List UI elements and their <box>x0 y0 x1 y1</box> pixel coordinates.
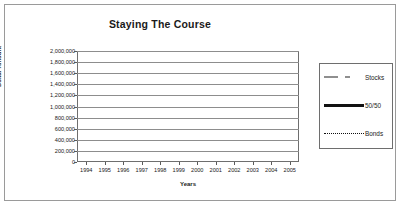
x-tick-mark <box>142 162 143 165</box>
x-tick-label: 1998 <box>154 167 166 173</box>
gridline <box>77 118 299 119</box>
gridline <box>77 151 299 152</box>
x-tick-label: 2003 <box>247 167 259 173</box>
gridline <box>77 129 299 130</box>
y-tick-label: 200,000 <box>13 148 75 154</box>
y-tick-label: 2,000,000 <box>13 48 75 54</box>
y-tick-label: 600,000 <box>13 126 75 132</box>
gridline <box>77 62 299 63</box>
y-tick-label: 1,200,000 <box>13 92 75 98</box>
x-tick-mark <box>160 162 161 165</box>
y-tick-mark <box>74 73 77 74</box>
y-tick-label: 400,000 <box>13 137 75 143</box>
y-axis-labels: Dollar Amount 0200,000400,000600,000800,… <box>5 5 75 207</box>
plot-area-wrapper <box>77 51 299 162</box>
y-tick-label: 1,800,000 <box>13 59 75 65</box>
legend-label-stocks: Stocks <box>365 74 384 81</box>
x-tick-label: 2000 <box>191 167 203 173</box>
gridline <box>77 140 299 141</box>
legend-swatch-bonds-icon <box>324 128 364 138</box>
x-tick-label: 1995 <box>99 167 111 173</box>
legend-label-bonds: Bonds <box>365 130 383 137</box>
x-tick-label: 1997 <box>136 167 148 173</box>
x-tick-label: 2004 <box>265 167 277 173</box>
x-tick-label: 2002 <box>228 167 240 173</box>
x-axis-title: Years <box>77 181 299 187</box>
x-tick-mark <box>123 162 124 165</box>
x-tick-label: 1996 <box>117 167 129 173</box>
x-tick-label: 1999 <box>173 167 185 173</box>
gridline <box>77 95 299 96</box>
legend-label-5050: 50/50 <box>365 102 381 109</box>
gridline <box>77 73 299 74</box>
x-tick-mark <box>234 162 235 165</box>
y-tick-mark <box>74 84 77 85</box>
y-tick-label: 0 <box>13 159 75 165</box>
gridline <box>77 107 299 108</box>
legend-item-stocks: Stocks <box>320 70 394 84</box>
y-tick-mark <box>74 107 77 108</box>
gridline <box>77 84 299 85</box>
chart-legend: Stocks 50/50 Bonds <box>319 63 393 149</box>
y-tick-mark <box>74 95 77 96</box>
x-tick-mark <box>271 162 272 165</box>
y-axis-title: Dollar Amount <box>0 46 2 87</box>
y-tick-label: 800,000 <box>13 115 75 121</box>
x-tick-label: 1994 <box>80 167 92 173</box>
x-tick-mark <box>216 162 217 165</box>
y-tick-mark <box>74 129 77 130</box>
legend-item-bonds: Bonds <box>320 126 394 140</box>
x-tick-mark <box>197 162 198 165</box>
x-tick-label: 2001 <box>210 167 222 173</box>
legend-swatch-stocks-icon <box>324 72 364 82</box>
x-tick-mark <box>179 162 180 165</box>
y-tick-mark <box>74 118 77 119</box>
gridline <box>77 51 299 52</box>
x-tick-mark <box>290 162 291 165</box>
y-tick-mark <box>74 140 77 141</box>
y-tick-mark <box>74 151 77 152</box>
x-tick-label: 2005 <box>284 167 296 173</box>
legend-swatch-5050-icon <box>324 100 364 110</box>
chart-screenshot: Staying The Course Dollar Amount 0200,00… <box>0 0 402 207</box>
y-tick-label: 1,000,000 <box>13 104 75 110</box>
y-tick-label: 1,600,000 <box>13 70 75 76</box>
legend-item-5050: 50/50 <box>320 98 394 112</box>
x-axis-labels: 1994199519961997199819992000200120022003… <box>77 163 299 177</box>
x-tick-mark <box>253 162 254 165</box>
x-tick-mark <box>86 162 87 165</box>
y-tick-mark <box>74 62 77 63</box>
x-tick-mark <box>105 162 106 165</box>
chart-frame: Staying The Course Dollar Amount 0200,00… <box>4 4 396 201</box>
y-tick-mark <box>74 51 77 52</box>
y-tick-label: 1,400,000 <box>13 81 75 87</box>
